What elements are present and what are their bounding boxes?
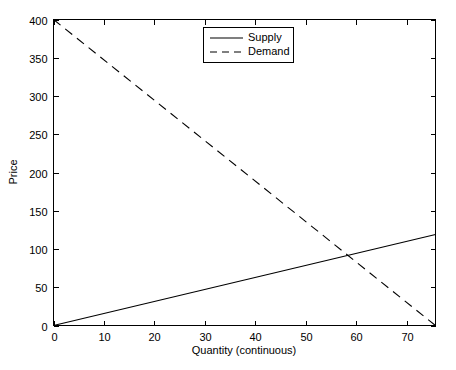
x-tick-label: 70 — [401, 331, 413, 343]
y-tick-label: 50 — [35, 282, 47, 294]
legend-label-supply: Supply — [248, 31, 282, 43]
legend-label-demand: Demand — [248, 45, 290, 57]
supply-demand-chart: 010203040506070 050100150200250300350400… — [0, 0, 456, 370]
y-tick-label: 400 — [29, 15, 47, 27]
y-tick-label: 0 — [41, 321, 47, 333]
x-tick-label: 50 — [300, 331, 312, 343]
y-tick-label: 250 — [29, 129, 47, 141]
chart-legend[interactable]: Supply Demand — [204, 28, 294, 63]
x-axis-ticks — [55, 20, 408, 326]
x-tick-label: 0 — [51, 331, 57, 343]
y-tick-label: 350 — [29, 53, 47, 65]
x-axis-title: Quantity (continuous) — [192, 344, 297, 356]
x-tick-label: 30 — [199, 331, 211, 343]
y-tick-label: 200 — [29, 168, 47, 180]
y-axis-tick-labels: 050100150200250300350400 — [29, 15, 47, 333]
x-tick-label: 40 — [249, 331, 261, 343]
chart-figure: 010203040506070 050100150200250300350400… — [0, 0, 456, 370]
y-axis-ticks — [54, 21, 436, 327]
series-line-supply — [54, 234, 436, 325]
x-axis-tick-labels: 010203040506070 — [51, 331, 413, 343]
y-tick-label: 150 — [29, 206, 47, 218]
x-tick-label: 60 — [350, 331, 362, 343]
x-tick-label: 10 — [98, 331, 110, 343]
y-tick-label: 100 — [29, 244, 47, 256]
y-tick-label: 300 — [29, 91, 47, 103]
y-axis-title: Price — [7, 159, 19, 184]
data-series-group — [54, 20, 436, 326]
x-tick-label: 20 — [148, 331, 160, 343]
